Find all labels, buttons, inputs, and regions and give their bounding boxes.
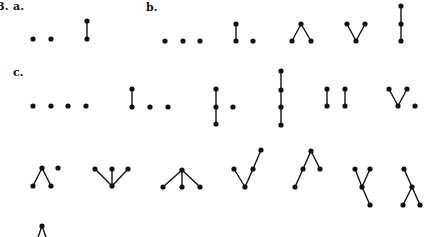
graph-vertex bbox=[180, 38, 185, 43]
graph-vertex bbox=[401, 166, 406, 171]
graph-vertex bbox=[398, 21, 403, 26]
graph-edge-plus-point bbox=[233, 21, 255, 43]
graph-inverted-y-shape bbox=[400, 166, 422, 207]
graph-edge bbox=[234, 169, 245, 187]
graph-vertex bbox=[400, 202, 405, 207]
graph-vertex bbox=[398, 3, 403, 8]
graph-vertex bbox=[109, 183, 114, 188]
graph-vee bbox=[344, 21, 367, 43]
graph-vertex bbox=[242, 184, 247, 189]
graph-vertex bbox=[48, 183, 53, 188]
graph-vertex bbox=[404, 86, 409, 91]
graph-vertex bbox=[39, 165, 44, 170]
graph-edge bbox=[295, 169, 303, 187]
graph-vee-plus-point bbox=[386, 86, 417, 108]
graph-partial-lambda-clipped bbox=[37, 223, 47, 237]
graph-empty-4 bbox=[30, 103, 88, 108]
graph-chain-4 bbox=[278, 68, 283, 127]
graph-edge-2 bbox=[84, 18, 89, 41]
graph-edge bbox=[33, 168, 42, 186]
graph-vertex bbox=[352, 166, 357, 171]
graph-vertex bbox=[160, 184, 165, 189]
graph-vertex bbox=[125, 166, 130, 171]
figure-canvas: 3. a. b. c. bbox=[0, 0, 424, 237]
graph-vertex bbox=[55, 165, 60, 170]
graph-vertex bbox=[233, 21, 238, 26]
graph-vertex bbox=[278, 87, 283, 92]
graph-edge bbox=[301, 24, 311, 41]
graph-empty-3 bbox=[162, 38, 202, 43]
graph-chain-3-plus-point bbox=[213, 86, 235, 126]
graph-vertex bbox=[342, 86, 347, 91]
graph-lambda-plus-point bbox=[30, 165, 60, 188]
graph-chain-3 bbox=[398, 3, 403, 43]
graph-vertex bbox=[231, 166, 236, 171]
graph-vertex bbox=[129, 86, 134, 91]
graph-vertex bbox=[278, 68, 283, 73]
graph-empty-2 bbox=[30, 36, 53, 41]
graph-vertex bbox=[213, 121, 218, 126]
graph-vertex bbox=[84, 36, 89, 41]
graph-edge-plus-2-points bbox=[129, 86, 170, 109]
graph-vertex bbox=[308, 148, 313, 153]
graph-vertex bbox=[197, 184, 202, 189]
graph-edge bbox=[389, 89, 398, 106]
graph-vertex bbox=[278, 122, 283, 127]
graph-edge bbox=[163, 170, 182, 187]
graph-vertex bbox=[398, 38, 403, 43]
graph-vertex bbox=[30, 103, 35, 108]
graph-vertex bbox=[324, 103, 329, 108]
graph-vertex bbox=[258, 147, 263, 152]
graph-vertex bbox=[362, 21, 367, 26]
graph-y-shape bbox=[352, 166, 372, 207]
graph-vertex bbox=[289, 38, 294, 43]
graph-edge bbox=[362, 187, 370, 205]
graph-vertex bbox=[417, 202, 422, 207]
graph-edge bbox=[403, 187, 412, 205]
graph-vertex bbox=[162, 38, 167, 43]
graph-edge bbox=[404, 169, 412, 187]
graph-vertex bbox=[147, 104, 152, 109]
graph-vertex bbox=[230, 104, 235, 109]
graph-vertex bbox=[197, 38, 202, 43]
graph-vertex bbox=[165, 104, 170, 109]
graph-vertex bbox=[367, 166, 372, 171]
graph-vertex bbox=[179, 184, 184, 189]
graph-edge bbox=[112, 169, 128, 186]
graph-edge bbox=[253, 150, 261, 169]
graph-vertex bbox=[30, 36, 35, 41]
graph-claw-up bbox=[160, 167, 202, 189]
graph-check-shape bbox=[231, 147, 263, 189]
graph-edge bbox=[412, 187, 420, 205]
graph-vertex bbox=[250, 38, 255, 43]
graph-edge bbox=[355, 169, 362, 187]
graph-vertex bbox=[109, 166, 114, 171]
graph-vertex bbox=[30, 183, 35, 188]
graph-vertex bbox=[129, 104, 134, 109]
graph-edge bbox=[356, 24, 365, 41]
graph-edge bbox=[347, 24, 356, 41]
graph-vertex bbox=[386, 86, 391, 91]
graph-vertex bbox=[84, 18, 89, 23]
graph-edge bbox=[245, 169, 253, 187]
graph-vertex bbox=[39, 223, 44, 228]
graph-vertex bbox=[324, 86, 329, 91]
graph-vertex bbox=[412, 103, 417, 108]
graph-vertex bbox=[308, 38, 313, 43]
graph-edge bbox=[95, 169, 112, 186]
graph-vertex bbox=[48, 36, 53, 41]
graph-vertex bbox=[300, 166, 305, 171]
graph-lambda bbox=[289, 21, 313, 43]
graph-vertex bbox=[213, 86, 218, 91]
graph-vertex bbox=[395, 103, 400, 108]
graph-vertex bbox=[48, 103, 53, 108]
graph-vertex bbox=[233, 38, 238, 43]
graph-vertex bbox=[250, 166, 255, 171]
graph-vertex bbox=[298, 21, 303, 26]
graph-vertex bbox=[317, 166, 322, 171]
graph-edge bbox=[362, 169, 370, 187]
graph-edge bbox=[292, 24, 301, 41]
graph-claw-down bbox=[92, 166, 130, 188]
graph-edge bbox=[303, 151, 311, 169]
graph-n-shape bbox=[292, 148, 322, 189]
